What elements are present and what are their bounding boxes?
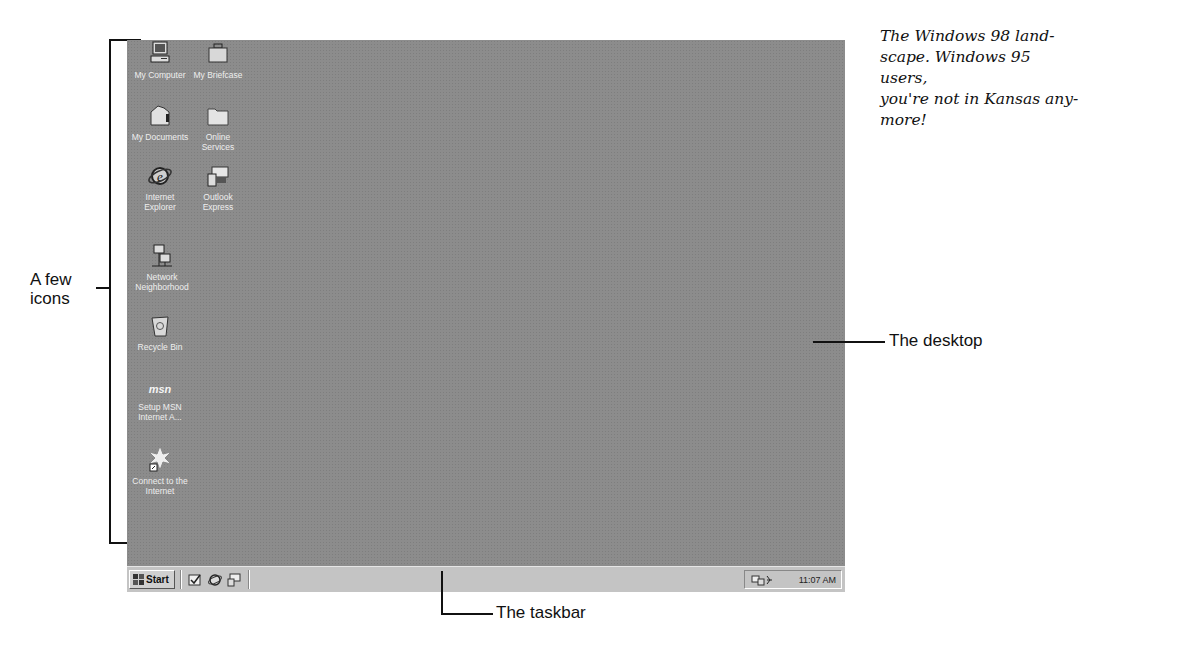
desktop-icon-outlook-express[interactable]: Outlook Express — [185, 162, 251, 212]
caption-line: more! — [880, 110, 1080, 131]
callout-icons-line2: icons — [30, 289, 72, 308]
taskbar-callout-vertical — [441, 571, 443, 615]
callout-icons-line1: A few — [30, 270, 72, 289]
network-status-icon[interactable] — [751, 573, 773, 587]
icon-label-line2: Internet — [125, 486, 195, 496]
desktop[interactable]: My Computer My Briefcase My Documents On… — [127, 40, 845, 566]
callout-icons: A few icons — [30, 270, 72, 308]
connect-internet-icon — [146, 444, 174, 474]
internet-explorer-icon[interactable] — [207, 572, 223, 588]
clock[interactable]: 11:07 AM — [799, 575, 836, 585]
icon-label-line2: Internet A... — [127, 412, 193, 422]
desktop-icon-setup-msn[interactable]: msn Setup MSN Internet A... — [127, 378, 193, 422]
computer-icon — [146, 40, 174, 68]
outlook-express-icon[interactable] — [226, 572, 242, 588]
desktop-icon-connect-internet[interactable]: Connect to the Internet — [125, 444, 195, 496]
documents-folder-icon — [146, 102, 174, 130]
icon-label-line1: Internet — [127, 192, 193, 202]
desktop-icon-internet-explorer[interactable]: e Internet Explorer — [127, 162, 193, 212]
system-tray: 11:07 AM — [744, 570, 842, 589]
icon-label-line1: Online — [185, 132, 251, 142]
icons-bracket-vertical — [109, 39, 111, 544]
briefcase-icon — [204, 40, 232, 68]
desktop-callout-line — [813, 341, 885, 343]
show-desktop-icon[interactable] — [187, 572, 203, 588]
icon-label-line1: Outlook — [185, 192, 251, 202]
caption-line: you're not in Kansas any- — [880, 89, 1080, 110]
desktop-icon-my-documents[interactable]: My Documents — [127, 102, 193, 142]
outlook-express-icon — [204, 162, 232, 190]
figure-caption: The Windows 98 land- scape. Windows 95 u… — [880, 26, 1080, 131]
taskbar-separator — [248, 570, 250, 589]
icon-label: My Documents — [127, 132, 193, 142]
icons-bracket-tick — [96, 287, 110, 289]
taskbar-separator — [180, 570, 182, 589]
start-button[interactable]: Start — [129, 570, 175, 589]
icon-label-line2: Services — [185, 142, 251, 152]
taskbar-callout-horizontal — [441, 613, 493, 615]
icon-label: My Briefcase — [185, 70, 251, 80]
icon-label-line2: Express — [185, 202, 251, 212]
msn-icon: msn — [127, 378, 193, 402]
desktop-icon-recycle-bin[interactable]: Recycle Bin — [127, 312, 193, 352]
icon-label: Recycle Bin — [127, 342, 193, 352]
internet-explorer-icon: e — [146, 162, 174, 190]
folder-icon — [204, 102, 232, 130]
desktop-icon-my-briefcase[interactable]: My Briefcase — [185, 40, 251, 80]
desktop-icon-online-services[interactable]: Online Services — [185, 102, 251, 152]
icon-label: My Computer — [127, 70, 193, 80]
start-label: Start — [146, 574, 169, 585]
windows-screen: My Computer My Briefcase My Documents On… — [127, 40, 845, 592]
desktop-icon-network-neighborhood[interactable]: Network Neighborhood — [127, 242, 197, 292]
callout-taskbar: The taskbar — [496, 603, 586, 623]
caption-line: scape. Windows 95 users, — [880, 47, 1080, 89]
recycle-bin-icon — [146, 312, 174, 340]
icon-label-line1: Setup MSN — [127, 402, 193, 412]
desktop-icon-my-computer[interactable]: My Computer — [127, 40, 193, 80]
icon-label-line1: Connect to the — [125, 476, 195, 486]
network-icon — [148, 242, 176, 270]
callout-desktop: The desktop — [889, 331, 983, 351]
windows-flag-icon — [133, 574, 144, 585]
taskbar: Start 11:07 AM — [127, 566, 845, 592]
icon-label-line1: Network — [127, 272, 197, 282]
caption-line: The Windows 98 land- — [880, 26, 1080, 47]
icon-label-line2: Explorer — [127, 202, 193, 212]
icon-label-line2: Neighborhood — [127, 282, 197, 292]
